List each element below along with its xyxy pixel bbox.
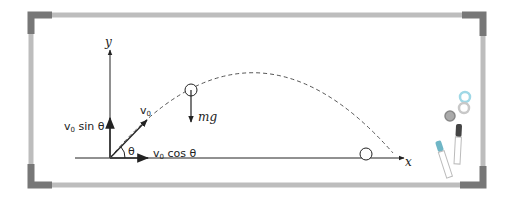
theta-label: θ — [128, 145, 135, 158]
trajectory-path — [110, 73, 393, 158]
whiteboard-diagram: y x v0 v0 sin θ v0 cos θ θ mg — [0, 0, 511, 205]
ball-landing — [360, 148, 372, 160]
v0-label: v0 — [140, 104, 151, 118]
y-axis-label: y — [104, 35, 112, 49]
magnets — [445, 92, 470, 121]
x-axis-label: x — [405, 155, 412, 169]
weight-label: mg — [198, 110, 217, 124]
theta-arc — [121, 147, 125, 158]
marker-black — [454, 124, 462, 164]
v0-sin-label: v0 sin θ — [64, 120, 105, 134]
whiteboard-frame — [31, 15, 483, 185]
marker-blue — [435, 140, 452, 178]
v0-cos-label: v0 cos θ — [153, 147, 196, 161]
